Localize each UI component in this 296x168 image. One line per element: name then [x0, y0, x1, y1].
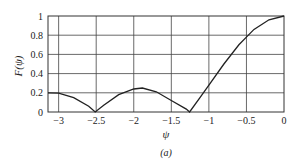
- y-tick-label: 1: [38, 11, 43, 22]
- data-line: [48, 16, 284, 112]
- x-tick-label: −2.5: [87, 115, 105, 126]
- y-tick-label: 0: [38, 107, 43, 118]
- y-tick-label: 0.6: [31, 49, 44, 60]
- x-tick-label: 0: [282, 115, 287, 126]
- y-axis-label: F(ψ): [12, 55, 25, 77]
- x-axis-ticks: −3−2.5−2−1.5−1−0.50: [53, 115, 286, 126]
- x-tick-label: −0.5: [237, 115, 255, 126]
- array-factor-chart: −3−2.5−2−1.5−1−0.50 00.20.40.60.81 F(ψ) …: [0, 0, 296, 168]
- y-tick-label: 0.8: [31, 30, 44, 41]
- y-tick-label: 0.2: [31, 87, 44, 98]
- x-tick-label: −3: [53, 115, 64, 126]
- y-axis-ticks: 00.20.40.60.81: [31, 11, 44, 118]
- x-tick-label: −1.5: [162, 115, 180, 126]
- x-tick-label: −2: [128, 115, 139, 126]
- x-tick-label: −1: [204, 115, 215, 126]
- y-tick-label: 0.4: [31, 68, 44, 79]
- figure-caption: (a): [160, 147, 172, 159]
- x-axis-label: ψ: [163, 128, 170, 140]
